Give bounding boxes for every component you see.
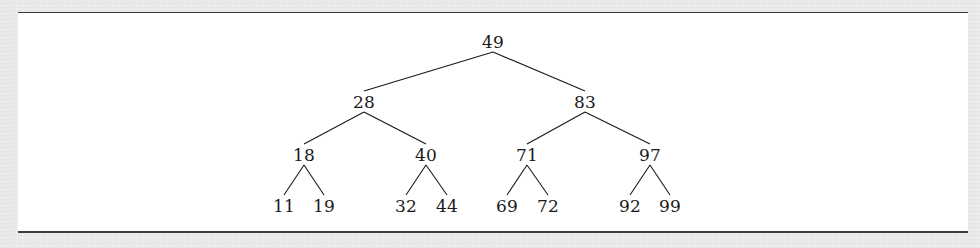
tree-edge [364, 52, 493, 91]
tree-edge [507, 165, 527, 195]
binary-tree-figure: 492883184071971119324469729299 [18, 13, 968, 233]
tree-node-40: 40 [415, 147, 437, 164]
tree-node-83: 83 [574, 94, 596, 111]
tree-edge [364, 112, 426, 144]
tree-edge [426, 165, 447, 195]
tree-edge [527, 112, 585, 144]
tree-edge [527, 165, 548, 195]
tree-edge [406, 165, 426, 195]
tree-edge [630, 165, 650, 195]
page: 492883184071971119324469729299 [0, 0, 980, 248]
tree-edge [304, 112, 364, 144]
horizontal-rule-bottom [18, 231, 968, 233]
tree-node-99: 99 [659, 198, 681, 215]
tree-node-71: 71 [516, 147, 538, 164]
tree-edge [284, 165, 304, 195]
tree-node-69: 69 [496, 198, 518, 215]
tree-edge [304, 165, 324, 195]
tree-node-11: 11 [273, 198, 295, 215]
tree-node-32: 32 [395, 198, 417, 215]
tree-edge [493, 52, 585, 91]
tree-node-44: 44 [436, 198, 458, 215]
tree-node-28: 28 [353, 94, 375, 111]
tree-node-72: 72 [537, 198, 559, 215]
tree-node-49: 49 [482, 34, 504, 51]
tree-edge [650, 165, 670, 195]
tree-node-92: 92 [619, 198, 641, 215]
tree-node-19: 19 [313, 198, 335, 215]
tree-edge [585, 112, 650, 144]
tree-node-97: 97 [639, 147, 661, 164]
tree-node-18: 18 [293, 147, 315, 164]
